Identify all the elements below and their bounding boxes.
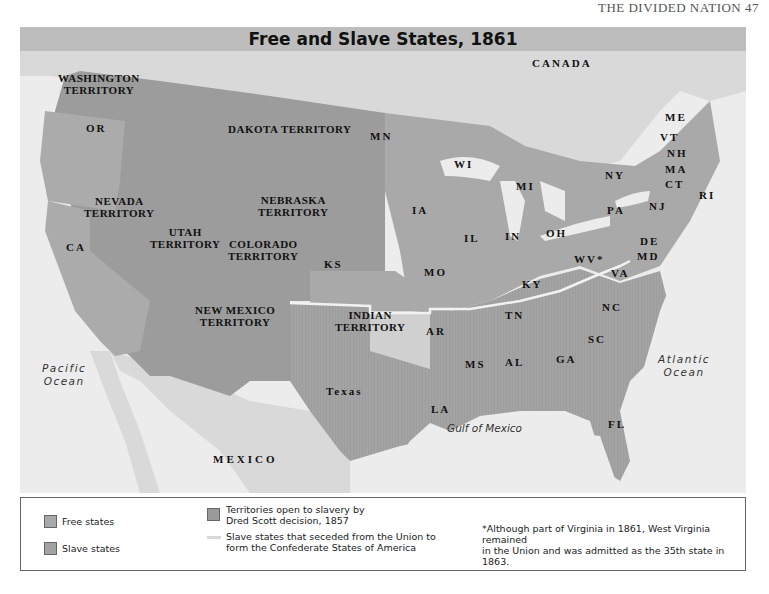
label-in: IN: [505, 230, 521, 242]
label-mo: MO: [424, 266, 447, 278]
label-il: IL: [464, 232, 480, 244]
label-fl: FL: [608, 418, 626, 430]
label-wv: WV*: [574, 253, 604, 265]
label-ms: MS: [465, 358, 486, 370]
label-nevada: NEVADATERRITORY: [84, 195, 155, 219]
label-ct: CT: [665, 178, 684, 190]
label-ca: CA: [66, 241, 86, 253]
label-vt: VT: [660, 131, 679, 143]
map-title: Free and Slave States, 1861: [249, 29, 518, 49]
map-canvas: [20, 51, 746, 493]
label-me: ME: [665, 111, 687, 123]
label-or: OR: [86, 122, 107, 134]
label-indian: INDIANTERRITORY: [335, 309, 406, 333]
dred-scott-swatch: [207, 508, 220, 521]
label-tn: TN: [505, 309, 524, 321]
label-wi: WI: [454, 158, 473, 170]
label-nj: NJ: [649, 200, 666, 212]
label-atlantic: AtlanticOcean: [658, 353, 710, 379]
label-mi: MI: [516, 180, 535, 192]
label-md: MD: [637, 250, 659, 262]
label-ky: KY: [522, 278, 543, 290]
map-frame: Free and Slave States, 1861: [20, 27, 746, 493]
label-ia: IA: [412, 204, 428, 216]
legend-territories: Territories open to slavery byDred Scott…: [226, 504, 365, 526]
label-new-mexico: NEW MEXICOTERRITORY: [195, 304, 275, 328]
label-ar: AR: [426, 325, 446, 337]
legend-slave-states: Slave states: [62, 543, 120, 554]
label-texas: Texas: [326, 385, 363, 397]
label-ks: KS: [324, 258, 343, 270]
label-canada: CANADA: [532, 57, 592, 69]
label-pacific: PacificOcean: [42, 362, 86, 388]
label-de: DE: [640, 235, 659, 247]
map-legend: Free states Slave states Territories ope…: [20, 497, 746, 571]
free-states-swatch: [44, 515, 57, 528]
label-ma: MA: [665, 163, 687, 175]
label-sc: SC: [588, 333, 606, 345]
label-mn: MN: [370, 130, 392, 142]
label-ri: RI: [699, 189, 715, 201]
label-gulf: Gulf of Mexico: [447, 422, 522, 435]
map-title-bar: Free and Slave States, 1861: [20, 27, 746, 51]
label-washington: WASHINGTONTERRITORY: [58, 72, 140, 96]
slave-states-swatch: [44, 542, 57, 555]
seceded-line-swatch: [207, 536, 221, 539]
label-oh: OH: [546, 227, 567, 239]
label-ga: GA: [556, 353, 577, 365]
running-head: THE DIVIDED NATION 47: [598, 0, 759, 16]
label-nh: NH: [667, 147, 688, 159]
label-pa: PA: [607, 204, 625, 216]
label-utah: UTAHTERRITORY: [150, 226, 221, 250]
label-nebraska: NEBRASKATERRITORY: [258, 194, 329, 218]
legend-footnote: *Although part of Virginia in 1861, West…: [482, 523, 745, 567]
label-nc: NC: [602, 301, 622, 313]
label-la: LA: [431, 403, 450, 415]
label-ny: NY: [605, 169, 625, 181]
label-mexico: MEXICO: [213, 453, 277, 465]
legend-free-states: Free states: [62, 516, 114, 527]
legend-seceded: Slave states that seceded from the Union…: [226, 531, 436, 553]
label-colorado: COLORADOTERRITORY: [228, 238, 299, 262]
label-dakota: DAKOTA TERRITORY: [228, 123, 351, 135]
label-al: AL: [505, 356, 524, 368]
label-va: VA: [611, 267, 629, 279]
